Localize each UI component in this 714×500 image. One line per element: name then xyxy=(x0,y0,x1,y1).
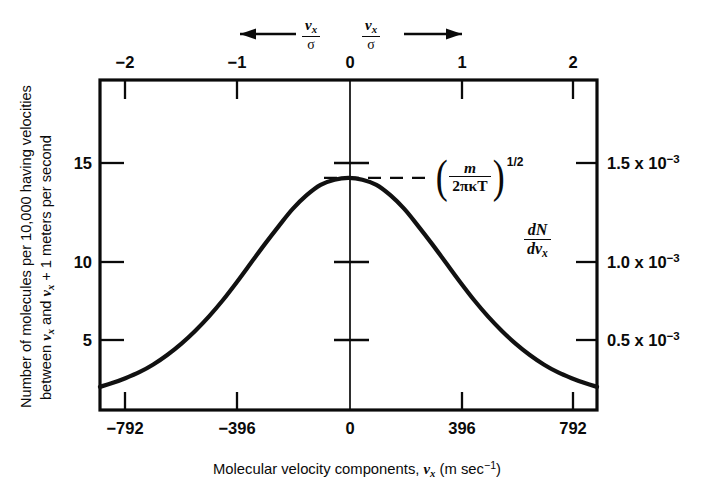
y-tick-labels-right: 1.5 x 10−3 1.0 x 10−3 0.5 x 10−3 xyxy=(607,153,680,349)
x-tick-label: 396 xyxy=(448,419,476,437)
paren-close: ) xyxy=(492,158,504,196)
x-tick-label: −792 xyxy=(106,419,143,437)
plot-frame xyxy=(100,80,597,410)
right-arrow-head xyxy=(446,29,462,40)
y-tick-labels-left: 15 10 5 xyxy=(74,154,92,349)
y-tick-label-left: 10 xyxy=(74,253,92,271)
y-axis-right-ticks xyxy=(576,163,597,340)
dN-numerator: dN xyxy=(524,222,551,240)
x-tick-label: 0 xyxy=(345,419,354,437)
velocity-distribution-chart: −792 −396 0 396 792 −2 −1 0 1 2 15 10 5 … xyxy=(0,0,714,500)
x-axis-title-prefix: Molecular velocity components, xyxy=(213,461,424,477)
formula-fraction: m 2πκT xyxy=(449,160,490,194)
top-axis-tick-labels: −2 −1 0 1 2 xyxy=(116,53,578,71)
vx-numerator-right: vx xyxy=(362,18,380,37)
x-tick-label: 792 xyxy=(559,419,587,437)
top-tick-label: 1 xyxy=(457,53,466,71)
y-tick-label-right: 1.5 x 10−3 xyxy=(607,153,680,172)
x-axis-unit-open: (m sec xyxy=(435,461,484,477)
y-axis-title-line-2: between vx and vx + 1 meters per second xyxy=(38,135,56,400)
top-tick-label: −2 xyxy=(116,53,135,71)
vx-numerator-left: vx xyxy=(302,18,320,37)
y-tick-right-mantissa: 0.5 x 10 xyxy=(607,331,667,349)
paren-open: ( xyxy=(436,158,448,196)
right-axis-quantity-label: dN dvx xyxy=(524,222,551,260)
x-axis-unit-close: ) xyxy=(496,461,501,477)
peak-amplitude-formula: ( m 2πκT ) 1/2 xyxy=(434,158,524,196)
y-tick-label-right: 0.5 x 10−3 xyxy=(607,330,680,349)
y-axis-title-suffix: + 1 meters per second xyxy=(38,135,54,285)
y-axis-title-prefix: between xyxy=(38,341,54,400)
vx-subscript-1: x xyxy=(45,329,56,334)
top-axis-arrows xyxy=(240,29,462,40)
sigma-denominator-right: σ xyxy=(362,37,380,52)
x-tick-label: −396 xyxy=(218,419,255,437)
y-tick-right-mantissa: 1.0 x 10 xyxy=(607,253,667,271)
sigma-denominator-left: σ xyxy=(302,37,320,52)
y-tick-right-mantissa: 1.5 x 10 xyxy=(607,154,667,172)
x-tick-labels: −792 −396 0 396 792 xyxy=(106,419,586,437)
x-axis-major-ticks xyxy=(125,392,573,410)
y-axis-title-line-1: Number of molecules per 10,000 having ve… xyxy=(18,85,34,408)
figure-container: −792 −396 0 396 792 −2 −1 0 1 2 15 10 5 … xyxy=(0,0,714,500)
formula-exponent: 1/2 xyxy=(507,156,524,168)
x-axis-title: Molecular velocity components, vx (m sec… xyxy=(0,459,714,479)
distribution-curve xyxy=(100,178,597,387)
top-axis-unit-label-right: vx σ xyxy=(362,18,380,52)
top-tick-label: −1 xyxy=(228,53,247,71)
vx-symbol-2: v xyxy=(38,290,54,296)
y-tick-label-right: 1.0 x 10−3 xyxy=(607,252,680,271)
top-axis-major-ticks xyxy=(125,80,573,99)
x-axis-unit-exponent: −1 xyxy=(484,459,496,471)
formula-numerator: m xyxy=(449,160,490,178)
formula-denominator: 2πκT xyxy=(449,177,490,194)
dvx-denominator: dvx xyxy=(524,240,551,260)
y-axis-title-mid: and xyxy=(38,297,54,329)
center-axis-cross-ticks xyxy=(334,163,369,340)
top-axis-unit-label-left: vx σ xyxy=(302,18,320,52)
top-tick-label: 2 xyxy=(568,53,577,71)
y-tick-label-left: 15 xyxy=(74,154,92,172)
y-tick-label-left: 5 xyxy=(83,331,92,349)
vx-subscript-2: x xyxy=(45,285,56,290)
top-tick-label: 0 xyxy=(345,53,354,71)
left-arrow-head xyxy=(240,29,256,40)
y-axis-title-text-1: Number of molecules per 10,000 having ve… xyxy=(18,85,34,408)
vx-symbol-1: v xyxy=(38,334,54,340)
y-axis-left-ticks xyxy=(100,163,124,340)
